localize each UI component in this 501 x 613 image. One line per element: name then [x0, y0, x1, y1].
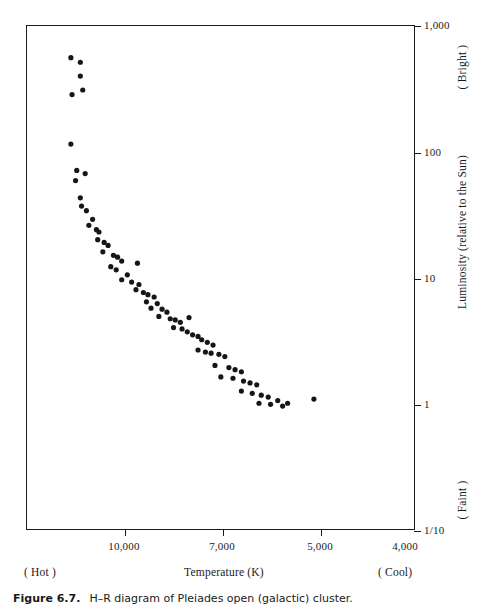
data-point [254, 382, 259, 387]
data-point [232, 367, 237, 372]
y-axis-title: Luminosity (relative to the Sun) [456, 155, 468, 309]
data-point [80, 87, 85, 92]
data-point [268, 402, 273, 407]
x-tick-label: 5,000 [307, 541, 333, 552]
figure-caption: Figure 6.7.H–R diagram of Pleiades open … [13, 592, 488, 606]
data-point [68, 142, 73, 147]
data-point [83, 171, 88, 176]
data-point [250, 391, 255, 396]
data-point [86, 223, 91, 228]
data-point [78, 60, 83, 65]
data-point [216, 352, 221, 357]
data-point [96, 229, 101, 234]
data-point [199, 337, 204, 342]
y-tick-label: 1/10 [424, 525, 444, 536]
data-point [190, 332, 195, 337]
y-tick-label: 10 [424, 273, 435, 284]
data-point [185, 329, 190, 334]
data-point [78, 73, 83, 78]
data-point [115, 255, 120, 260]
data-point [119, 277, 124, 282]
y-axis-bright-note: ( Bright ) [456, 45, 468, 90]
data-point [133, 287, 138, 292]
data-point [230, 376, 235, 381]
data-point [114, 267, 119, 272]
x-tick-label: 10,000 [108, 541, 139, 552]
data-point [218, 374, 223, 379]
data-point [136, 282, 141, 287]
data-point [209, 351, 214, 356]
figure-container: 1,0001001011/10 10,0007,0005,0004,000 Lu… [0, 0, 501, 613]
y-tick-label: 1 [424, 399, 430, 410]
data-point [119, 259, 124, 264]
data-point [164, 310, 169, 315]
data-point [68, 55, 73, 60]
data-point [210, 343, 215, 348]
data-point [100, 249, 105, 254]
plot-frame [26, 25, 415, 530]
x-axis-hot-note: ( Hot ) [24, 566, 56, 578]
data-point [285, 401, 290, 406]
y-tick-label: 100 [424, 147, 441, 158]
data-point [195, 347, 200, 352]
data-point [247, 380, 252, 385]
data-point [256, 401, 261, 406]
data-point [239, 388, 244, 393]
data-point [212, 363, 217, 368]
data-point [108, 264, 113, 269]
y-tick-mark [414, 153, 421, 154]
y-tick-label: 1,000 [424, 20, 450, 31]
data-point [141, 290, 146, 295]
data-point [78, 195, 83, 200]
data-point [145, 292, 150, 297]
x-tick-label: 4,000 [392, 541, 418, 552]
data-point [259, 393, 264, 398]
x-tick-label: 7,000 [209, 541, 235, 552]
data-point [173, 317, 178, 322]
data-point [106, 243, 111, 248]
scatter-plot-area [27, 26, 414, 529]
data-point [135, 261, 140, 266]
data-point [222, 354, 227, 359]
data-point [226, 365, 231, 370]
x-axis-cool-note: ( Cool) [378, 566, 412, 578]
x-axis-title: Temperature (K) [184, 566, 264, 578]
x-tick-mark [321, 529, 322, 536]
x-tick-mark [223, 529, 224, 536]
data-point [156, 314, 161, 319]
data-point [74, 168, 79, 173]
data-point [79, 203, 84, 208]
y-tick-mark [414, 531, 421, 532]
data-point [84, 208, 89, 213]
figure-caption-number: Figure 6.7. [13, 592, 80, 605]
data-point [275, 398, 280, 403]
data-point [186, 315, 191, 320]
data-point [155, 301, 160, 306]
data-point [239, 369, 244, 374]
data-point [241, 379, 246, 384]
y-tick-mark [414, 279, 421, 280]
data-point [73, 178, 78, 183]
y-tick-mark [414, 26, 421, 27]
data-point [178, 320, 183, 325]
data-point [179, 326, 184, 331]
x-tick-mark [125, 529, 126, 536]
data-point [95, 237, 100, 242]
data-point [280, 403, 285, 408]
data-point [148, 306, 153, 311]
y-axis-faint-note: ( Faint ) [456, 481, 468, 520]
figure-caption-text: H–R diagram of Pleiades open (galactic) … [89, 592, 352, 605]
data-point [205, 340, 210, 345]
data-point [129, 279, 134, 284]
data-point [203, 350, 208, 355]
data-point [159, 307, 164, 312]
data-point [125, 272, 130, 277]
data-point [168, 316, 173, 321]
y-tick-mark [414, 405, 421, 406]
data-point [152, 294, 157, 299]
data-point [266, 394, 271, 399]
data-point [69, 92, 74, 97]
data-point [311, 396, 316, 401]
data-point [90, 217, 95, 222]
data-point [171, 325, 176, 330]
